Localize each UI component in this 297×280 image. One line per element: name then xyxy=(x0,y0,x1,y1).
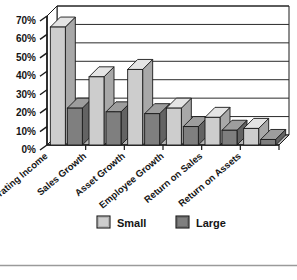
y-tick-mark xyxy=(40,127,47,132)
y-tick-mark xyxy=(40,71,47,76)
y-tick-label: 30% xyxy=(16,89,36,100)
y-tick-mark xyxy=(40,16,47,21)
x-category-label: Operating Income xyxy=(0,150,50,210)
x-axis-category-labels: Operating IncomeSales GrowthAsset Growth… xyxy=(0,145,279,210)
y-tick-mark xyxy=(40,34,47,39)
y-tick-label: 0% xyxy=(22,144,37,155)
legend-label-large: Large xyxy=(196,217,226,229)
x-category-label: Employee Growth xyxy=(97,150,166,210)
y-tick-mark xyxy=(40,53,47,58)
y-tick-label: 20% xyxy=(16,107,36,118)
y-tick-label: 60% xyxy=(16,33,36,44)
bar-chart: 0%10%20%30%40%50%60%70% Operating Income… xyxy=(0,0,297,280)
chart-legend: SmallLarge xyxy=(97,216,226,229)
y-axis-ticks: 0%10%20%30%40%50%60%70% xyxy=(16,15,47,155)
y-tick-label: 10% xyxy=(16,126,36,137)
chart-canvas: 0%10%20%30%40%50%60%70% Operating Income… xyxy=(0,0,297,280)
y-tick-mark xyxy=(40,145,47,150)
y-tick-label: 40% xyxy=(16,70,36,81)
y-tick-mark xyxy=(40,90,47,95)
y-tick-label: 50% xyxy=(16,52,36,63)
legend-label-small: Small xyxy=(117,217,146,229)
y-tick-mark xyxy=(40,108,47,113)
y-tick-label: 70% xyxy=(16,15,36,26)
